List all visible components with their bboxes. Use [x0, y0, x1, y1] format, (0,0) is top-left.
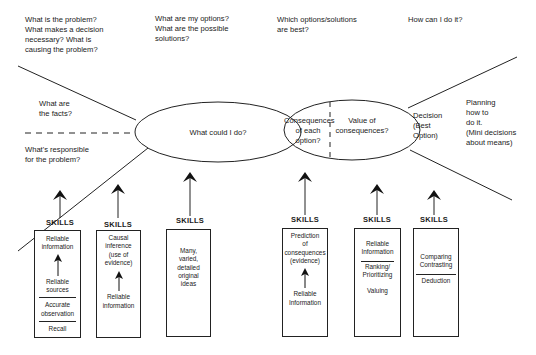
- up-arrow-icon: [35, 254, 80, 278]
- upper-left-line: [18, 66, 136, 120]
- skill-item: Ranking/ Prioritizing: [355, 263, 400, 280]
- label-facts: What are the facts?: [39, 99, 72, 119]
- skill-item: Many, varied, detailed original ideas: [167, 247, 210, 288]
- skills-label-3: SKILLS: [160, 216, 220, 225]
- skills-label-5: SKILLS: [347, 215, 407, 224]
- skill-item: Reliable information: [35, 235, 80, 252]
- divider: [361, 261, 394, 262]
- ellipse-text-value: Value of consequences?: [332, 116, 392, 136]
- skills-label-2: SKILLS: [88, 220, 148, 229]
- skill-item: Accurate observation: [35, 301, 80, 318]
- skill-item: Comparing Contrasting: [414, 253, 458, 270]
- divider: [39, 297, 76, 298]
- label-decision: Decision (Best Option): [413, 111, 442, 141]
- ellipse-text-options: What could I do?: [168, 128, 268, 138]
- skill-box-facts: Reliable information Reliable sources Ac…: [34, 230, 81, 338]
- skill-item: Reliable information: [97, 293, 140, 310]
- divider: [39, 321, 76, 322]
- skills-label-1: SKILLS: [30, 218, 90, 227]
- skills-label-6: SKILLS: [404, 215, 464, 224]
- up-arrow-icon: [283, 268, 327, 290]
- question-how: How can I do it?: [408, 15, 462, 25]
- skill-item: Deduction: [414, 277, 458, 285]
- divider: [416, 274, 456, 275]
- skill-item: Prediction of consequences (evidence): [283, 232, 327, 265]
- skill-item: Causal inference (use of evidence): [97, 234, 140, 267]
- skill-box-value: Reliable Information Ranking/ Prioritizi…: [354, 228, 401, 337]
- question-best: Which options/solutions are best?: [277, 15, 357, 35]
- question-problem: What is the problem? What makes a decisi…: [25, 15, 104, 55]
- skill-box-consequences: Prediction of consequences (evidence) Re…: [282, 228, 328, 337]
- ellipse-text-consequences: Consequences of each option?: [284, 116, 332, 146]
- skill-item: Reliable Information: [355, 240, 400, 257]
- skill-box-decision: Comparing Contrasting Deduction: [413, 228, 459, 337]
- skill-item: Valuing: [355, 287, 400, 295]
- label-planning: Planning how to do it. (Mini decisions a…: [466, 98, 516, 148]
- question-options: What are my options? What are the possib…: [155, 14, 229, 44]
- skill-item: Reliable Information: [283, 290, 327, 307]
- lower-right-line: [410, 150, 512, 200]
- skill-box-options: Many, varied, detailed original ideas: [166, 229, 211, 337]
- up-arrow-icon: [97, 271, 140, 293]
- label-responsible: What's responsible for the problem?: [25, 145, 89, 165]
- skill-box-causes: Causal inference (use of evidence) Relia…: [96, 230, 141, 338]
- skill-item: Reliable sources: [35, 278, 80, 295]
- skills-label-4: SKILLS: [275, 215, 335, 224]
- skill-item: Recall: [35, 325, 80, 333]
